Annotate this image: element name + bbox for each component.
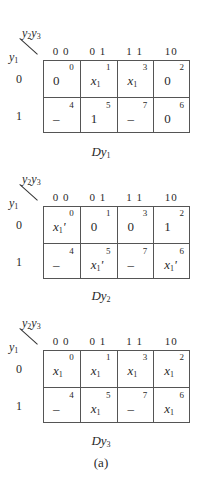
row-header: 1 [12,255,26,270]
kmap-grid: 0x1'1030214–5x1'7–6x1' [43,206,190,279]
map-label: Dy2 [0,288,202,304]
row-variable-label: y1 [9,340,18,355]
cell-value: x1 [164,401,174,417]
cell-value: x1' [91,257,104,273]
minterm-index: 1 [106,352,111,362]
column-variables-label: y2y3 [22,316,41,331]
karnaugh-map-3: y2y3y10 00 11 110010x11x13x12x14–5x17–6x… [0,0,202,140]
cell-value: 0 [91,219,98,235]
minterm-index: 2 [180,208,185,218]
minterm-index: 0 [69,352,74,362]
row-variable-label: y1 [9,196,18,211]
kmap-cell: 0x1 [43,350,80,387]
cell-value: x1' [53,219,66,235]
kmap-cell: 6x1 [153,387,190,424]
kmap-cell: 4– [43,243,80,280]
cell-value: – [53,401,60,417]
row-header: 0 [12,362,26,377]
column-header: 0 1 [80,335,116,347]
kmap-cell: 2x1 [153,350,190,387]
kmap-cell: 6x1' [153,243,190,280]
kmap-cell: 7– [117,387,154,424]
minterm-index: 7 [143,246,148,256]
minterm-index: 2 [180,352,185,362]
column-header: 10 [153,335,189,347]
cell-value: 0 [128,219,135,235]
cell-value: 1 [164,219,171,235]
minterm-index: 6 [180,246,185,256]
cell-value: – [128,257,135,273]
cell-value: – [128,401,135,417]
minterm-index: 4 [69,390,74,400]
minterm-index: 3 [143,208,148,218]
cell-value: x1 [91,401,101,417]
minterm-index: 7 [143,390,148,400]
column-header: 1 1 [117,335,153,347]
kmap-cell: 5x1' [80,243,117,280]
row-header: 0 [12,218,26,233]
minterm-index: 6 [180,390,185,400]
map-label: Dy1 [0,144,202,160]
kmap-cell: 4– [43,387,80,424]
kmap-cell: 3x1 [117,350,154,387]
kmap-grid: 0x11x13x12x14–5x17–6x1 [43,350,190,423]
figure-caption: (a) [0,455,202,471]
kmap-cell: 30 [117,206,154,243]
column-header: 0 0 [43,335,79,347]
minterm-index: 5 [106,390,111,400]
minterm-index: 5 [106,246,111,256]
column-header: 1 1 [117,191,153,203]
minterm-index: 4 [69,246,74,256]
kmap-cell: 5x1 [80,387,117,424]
kmap-cell: 1x1 [80,350,117,387]
minterm-index: 0 [69,208,74,218]
column-header: 0 0 [43,191,79,203]
kmap-cell: 7– [117,243,154,280]
cell-value: x1 [128,363,138,379]
column-header: 10 [153,191,189,203]
kmap-cell: 10 [80,206,117,243]
cell-value: x1 [53,363,63,379]
kmap-cell: 21 [153,206,190,243]
kmap-cell: 0x1' [43,206,80,243]
cell-value: – [53,257,60,273]
cell-value: x1 [164,363,174,379]
minterm-index: 3 [143,352,148,362]
row-header: 1 [12,399,26,414]
cell-value: x1' [164,257,177,273]
minterm-index: 1 [106,208,111,218]
cell-value: x1 [91,363,101,379]
column-variables-label: y2y3 [22,172,41,187]
column-header: 0 1 [80,191,116,203]
map-label: Dy3 [0,433,202,449]
